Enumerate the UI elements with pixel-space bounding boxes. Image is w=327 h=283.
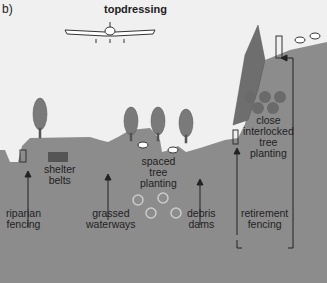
label-debris-dams: debris dams (187, 208, 216, 230)
plane-icon (65, 22, 155, 43)
sheep-icon (168, 147, 178, 153)
label-riparian-fencing: riparian fencing (6, 208, 41, 230)
label-grassed-waterways: grassed waterways (86, 208, 136, 230)
sheep-icon (310, 33, 320, 39)
cow-icon (48, 152, 68, 162)
label-spaced-tree-planting: spaced tree planting (140, 156, 177, 189)
tree-icon (33, 25, 265, 143)
label-close-interlocked-tree-planting: close interlocked tree planting (243, 115, 294, 159)
label-shelter-belts: shelter belts (44, 164, 76, 186)
panel-label: b) (2, 2, 13, 16)
diagram-title: topdressing (104, 3, 167, 15)
sheep-icon (295, 37, 305, 43)
sheep-icon (138, 142, 148, 148)
label-retirement-fencing: retirement fencing (241, 208, 288, 230)
